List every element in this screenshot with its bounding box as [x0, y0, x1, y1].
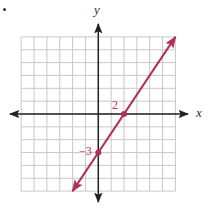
- axes: [10, 24, 188, 202]
- y-axis-label: y: [94, 2, 100, 18]
- x-intercept-label: 2: [112, 98, 118, 113]
- x-axis-label: x: [196, 105, 202, 121]
- coordinate-plane: [0, 0, 208, 210]
- y-intercept-label: −3: [79, 144, 92, 159]
